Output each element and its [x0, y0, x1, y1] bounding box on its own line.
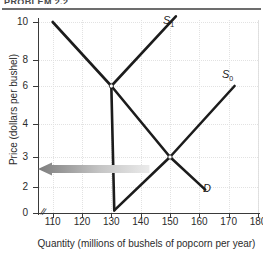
- gridline-v-160: [199, 20, 200, 213]
- curve-label-D: D: [203, 182, 211, 194]
- gridline-v-130: [111, 20, 112, 213]
- x-tick-label-170: 170: [214, 216, 244, 227]
- header-rule: [2, 8, 261, 10]
- y-axis-line: [38, 18, 39, 215]
- gridline-v-180: [258, 20, 259, 213]
- curve-label-sub-S0: 0: [229, 75, 233, 82]
- curve-label-sub-S1: 1: [170, 21, 174, 28]
- x-tick-label-110: 110: [38, 216, 68, 227]
- gridline-h-3: [38, 157, 258, 158]
- gridline-v-170: [229, 20, 230, 213]
- figure-caption: PROBLEM 2.2: [4, 0, 68, 4]
- gridline-h-2: [38, 187, 258, 188]
- x-tick-label-160: 160: [184, 216, 214, 227]
- figure-container: PROBLEM 2.2 0234681011012013014015016017…: [0, 0, 263, 259]
- gridline-v-110: [53, 20, 54, 213]
- gridline-v-120: [82, 20, 83, 213]
- gridline-h-8: [38, 60, 258, 61]
- curve-label-S0: S0: [222, 68, 233, 82]
- x-tick-label-150: 150: [155, 216, 185, 227]
- gridline-v-140: [141, 20, 142, 213]
- gridline-v-150: [170, 20, 171, 213]
- y-tick-label-10: 10: [2, 16, 28, 27]
- x-tick-label-140: 140: [126, 216, 156, 227]
- gridline-h-4: [38, 124, 258, 125]
- x-axis-title: Quantity (millions of bushels of popcorn…: [30, 238, 263, 249]
- plot-area: [38, 20, 259, 214]
- x-axis-line: [36, 213, 260, 214]
- curve-label-S1: S1: [163, 14, 174, 28]
- gridline-h-6: [38, 86, 258, 87]
- y-axis-title: Price (dollars per bushel): [8, 35, 19, 185]
- gridline-h-10: [38, 22, 258, 23]
- y-tick-label-0: 0: [2, 207, 28, 218]
- x-tick-label-180: 180: [243, 216, 263, 227]
- curve-label-text-D: D: [203, 182, 211, 194]
- x-tick-label-130: 130: [96, 216, 126, 227]
- x-tick-label-120: 120: [67, 216, 97, 227]
